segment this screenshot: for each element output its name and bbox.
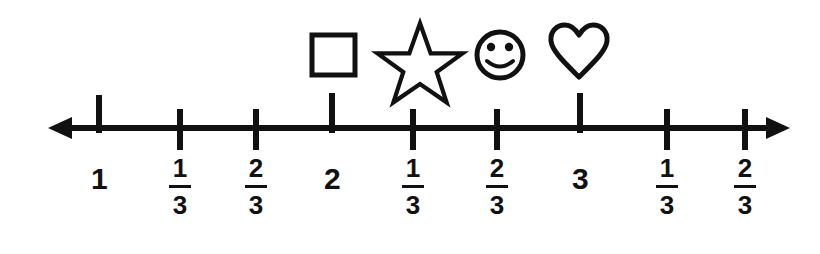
- fraction-denominator: 3: [725, 191, 765, 218]
- label-fraction-1-1-3: 1 3: [160, 155, 200, 218]
- fraction-numerator: 2: [725, 155, 765, 183]
- label-fraction-3-1-3: 1 3: [647, 155, 687, 218]
- fraction-denominator: 3: [393, 191, 433, 218]
- fraction-bar: [169, 185, 191, 188]
- left-arrowhead-icon: [48, 117, 72, 139]
- label-whole-3: 3: [572, 164, 588, 194]
- fraction-bar: [245, 185, 267, 188]
- heart-icon: [551, 25, 607, 77]
- label-fraction-2-1-3: 1 3: [393, 155, 433, 218]
- fraction-numerator: 2: [477, 155, 517, 183]
- number-line-figure: 1 2 3 1 3 2 3 1 3 2 3 1 3 2 3: [0, 0, 820, 254]
- axis-group: [48, 117, 790, 139]
- label-fraction-2-2-3: 2 3: [477, 155, 517, 218]
- marker-shapes: [312, 23, 607, 102]
- fraction-numerator: 1: [393, 155, 433, 183]
- fraction-numerator: 1: [160, 155, 200, 183]
- right-arrowhead-icon: [766, 117, 790, 139]
- fraction-bar: [486, 185, 508, 188]
- square-icon: [312, 35, 355, 75]
- star-icon: [378, 23, 463, 102]
- fraction-denominator: 3: [160, 191, 200, 218]
- fraction-numerator: 2: [236, 155, 276, 183]
- label-fraction-3-2-3: 2 3: [725, 155, 765, 218]
- fraction-bar: [734, 185, 756, 188]
- fraction-bar: [656, 185, 678, 188]
- label-whole-1: 1: [91, 164, 107, 194]
- label-fraction-1-2-3: 2 3: [236, 155, 276, 218]
- fraction-bar: [402, 185, 424, 188]
- label-whole-2: 2: [324, 164, 340, 194]
- fraction-denominator: 3: [647, 191, 687, 218]
- fraction-denominator: 3: [236, 191, 276, 218]
- fraction-numerator: 1: [647, 155, 687, 183]
- fraction-denominator: 3: [477, 191, 517, 218]
- smiley-icon: [477, 32, 523, 78]
